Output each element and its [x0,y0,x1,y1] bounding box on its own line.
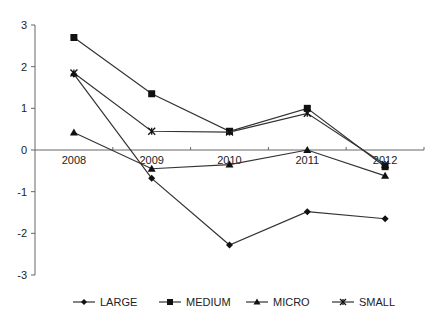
square-marker-icon [167,299,173,305]
legend-item-medium: MEDIUM [159,296,231,308]
series-line [74,73,385,165]
series-group [70,34,389,249]
legend-item-small: SMALL [332,296,395,308]
y-tick-label: -1 [17,186,27,198]
legend: LARGEMEDIUMMICROSMALL [73,296,395,308]
legend-item-large: LARGE [73,296,137,308]
y-tick-label: 3 [21,19,27,31]
y-tick-label: -2 [17,227,27,239]
square-marker-icon [70,34,77,41]
star-marker-icon [70,69,77,76]
triangle-marker-icon [70,129,78,136]
x-tick-label: 2008 [62,154,86,166]
series-line [74,38,385,167]
legend-label: MEDIUM [186,296,231,308]
legend-label: SMALL [359,296,395,308]
legend-item-micro: MICRO [246,296,310,308]
y-tick-label: -3 [17,269,27,281]
y-tick-label: 1 [21,102,27,114]
diamond-marker-icon [382,215,389,222]
y-tick-label: 2 [21,61,27,73]
square-marker-icon [148,90,155,97]
y-tick-label: 0 [21,144,27,156]
diamond-marker-icon [304,208,311,215]
legend-label: MICRO [273,296,310,308]
legend-label: LARGE [100,296,137,308]
x-tick-label: 2011 [295,154,319,166]
diamond-marker-icon [81,299,87,305]
line-chart: -3-2-1012320082009201020112012 LARGEMEDI… [0,0,442,319]
